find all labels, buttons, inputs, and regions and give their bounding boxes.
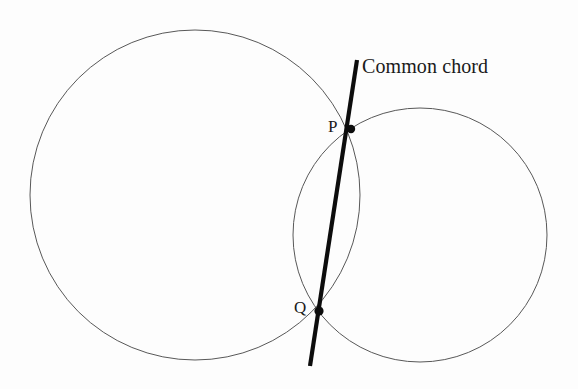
left-circle xyxy=(30,30,360,360)
intersection-point-p-dot xyxy=(347,125,355,133)
common-chord-label: Common chord xyxy=(362,56,488,76)
point-p-label: P xyxy=(328,118,337,135)
intersection-point-q-dot xyxy=(314,306,323,315)
point-q-label: Q xyxy=(294,299,306,316)
common-chord-diagram xyxy=(0,0,578,389)
diagram-canvas: Common chord P Q xyxy=(0,0,578,389)
